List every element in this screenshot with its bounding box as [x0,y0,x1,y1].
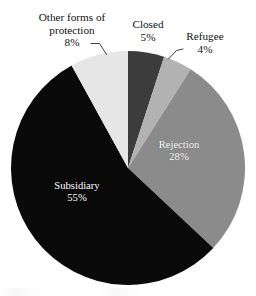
pie-chart: Other forms of protection 8% Closed 5% R… [0,0,256,296]
pie-label-other-forms-of-protection: Other forms of protection 8% [20,11,124,49]
pie-slices [11,51,245,285]
pie-value-refugee: 4% [174,43,236,56]
pie-value-closed: 5% [120,31,176,44]
pie-label-other-forms-of-protection-line2: protection [20,24,124,37]
pie-label-closed: Closed 5% [120,18,176,43]
pie-label-rejection: Rejection 28% [144,139,214,163]
pie-label-subsidiary: Subsidiary 55% [34,180,120,204]
pie-label-refugee-name: Refugee [174,30,236,43]
scan-artifact [0,288,256,296]
pie-value-rejection: 28% [144,151,214,163]
pie-label-subsidiary-name: Subsidiary [34,180,120,192]
pie-value-subsidiary: 55% [34,192,120,204]
pie-label-rejection-name: Rejection [144,139,214,151]
pie-value-other-forms-of-protection: 8% [20,36,124,49]
pie-label-refugee: Refugee 4% [174,30,236,55]
pie-label-closed-name: Closed [120,18,176,31]
pie-label-other-forms-of-protection-line1: Other forms of [20,11,124,24]
